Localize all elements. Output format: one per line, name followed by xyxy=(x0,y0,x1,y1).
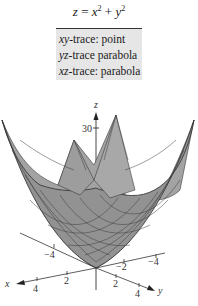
z-axis-arrow-icon xyxy=(94,112,99,120)
y-tick-label-neg2: −2 xyxy=(116,261,127,272)
y-tick-label-4: 4 xyxy=(135,288,140,299)
x-tick-label-neg4: −4 xyxy=(44,249,55,260)
x-tick-label-2: 2 xyxy=(64,275,69,286)
y-axis-label: y xyxy=(157,285,163,296)
y-tick-label-2: 2 xyxy=(113,278,118,289)
y-tick-label-neg4: −4 xyxy=(148,256,159,267)
x-tick-label-4: 4 xyxy=(33,283,38,294)
x-axis-arrow-icon xyxy=(16,280,25,285)
x-axis-label: x xyxy=(4,278,10,289)
x-axis xyxy=(20,268,96,283)
paraboloid-plot: z 30 x y 4 2 −4 −2 −4 2 4 xyxy=(0,0,198,306)
z-tick-label-30: 30 xyxy=(82,123,92,134)
y-axis-arrow-icon xyxy=(147,285,155,291)
z-axis-label: z xyxy=(93,99,98,110)
